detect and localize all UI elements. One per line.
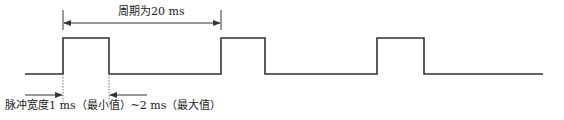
period-label: 周期为20 ms bbox=[118, 6, 185, 18]
pulse-width-marker bbox=[25, 74, 147, 102]
square-wave-signal bbox=[25, 38, 543, 74]
pulse-width-label: 脉冲宽度1 ms（最小值）~2 ms（最大值） bbox=[5, 100, 221, 112]
